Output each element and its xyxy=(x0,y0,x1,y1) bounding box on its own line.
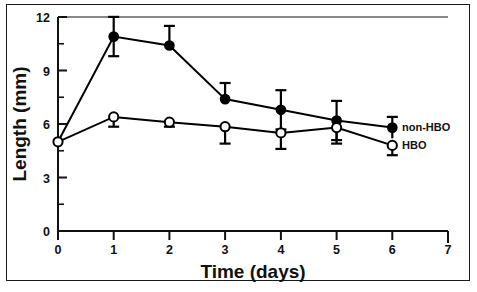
data-point xyxy=(221,122,230,131)
x-tick-label: 3 xyxy=(222,243,229,257)
series-non-hbo-markers xyxy=(109,32,397,132)
x-tick-label: 7 xyxy=(445,243,452,257)
legend-label-hbo: HBO xyxy=(402,139,427,151)
data-point xyxy=(276,128,285,137)
x-axis-title: Time (days) xyxy=(200,261,305,282)
data-point xyxy=(53,137,62,146)
x-tick-label: 6 xyxy=(389,243,396,257)
data-point xyxy=(109,112,118,121)
y-tick-label: 12 xyxy=(36,11,50,25)
y-axis-tick-labels: 0 3 6 9 12 xyxy=(36,11,50,239)
x-tick-label: 2 xyxy=(166,243,173,257)
data-point xyxy=(165,118,174,127)
x-tick-label: 4 xyxy=(277,243,284,257)
data-point xyxy=(388,123,397,132)
data-point xyxy=(388,141,397,150)
data-point xyxy=(109,32,118,41)
figure-caption xyxy=(10,285,450,292)
x-tick-label: 0 xyxy=(55,243,62,257)
series-hbo xyxy=(53,112,397,155)
legend-label-non-hbo: non-HBO xyxy=(402,121,451,133)
chart-legend: non-HBO HBO xyxy=(402,121,451,151)
data-point xyxy=(332,123,341,132)
line-chart: 0 3 6 9 12 0 1 2 3 4 5 6 7 Length (mm) T… xyxy=(0,0,477,292)
data-point xyxy=(276,105,285,114)
y-axis-major-ticks xyxy=(58,17,67,231)
data-point xyxy=(221,95,230,104)
y-tick-label: 6 xyxy=(43,118,50,132)
series-non-hbo-errorbars xyxy=(108,17,398,140)
y-axis-title: Length (mm) xyxy=(9,66,30,181)
y-tick-label: 3 xyxy=(43,172,50,186)
x-tick-label: 5 xyxy=(333,243,340,257)
y-tick-label: 0 xyxy=(43,225,50,239)
figure-root: 0 3 6 9 12 0 1 2 3 4 5 6 7 Length (mm) T… xyxy=(0,0,477,292)
x-axis-tick-labels: 0 1 2 3 4 5 6 7 xyxy=(55,243,452,257)
data-point xyxy=(165,41,174,50)
y-tick-label: 9 xyxy=(43,65,50,79)
x-axis-ticks xyxy=(58,231,448,240)
x-tick-label: 1 xyxy=(110,243,117,257)
